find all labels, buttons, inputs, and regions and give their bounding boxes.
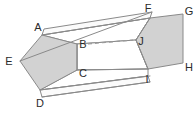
vertex-label-G: G [185, 5, 194, 17]
vertex-label-H: H [185, 61, 193, 73]
vertex-label-B: B [79, 38, 86, 50]
vertex-label-E: E [5, 55, 12, 67]
vertex-label-F: F [145, 2, 152, 14]
geometry-figure-container: A B C D E F G H I J [0, 0, 196, 118]
vertex-label-J: J [138, 35, 144, 47]
vertex-label-C: C [79, 67, 87, 79]
vertex-label-I: I [145, 73, 148, 85]
vertex-label-A: A [34, 21, 42, 33]
vertex-label-D: D [36, 97, 44, 109]
pentagonal-prism-diagram: A B C D E F G H I J [0, 0, 196, 118]
